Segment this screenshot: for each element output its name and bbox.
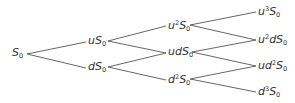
tree-node-n3ddd: d3S0 [258,83,280,101]
tree-edge-n0-n1u [27,42,86,54]
tree-node-n3udd: ud2S0 [258,57,287,75]
tree-node-n1d: dS0 [88,61,106,76]
tree-edge-n2ud-n3uud [192,40,256,52]
tree-node-n3uuu: u3S0 [258,3,280,21]
tree-edge-n1d-n2dd [108,67,166,80]
tree-edge-n2dd-n3ddd [190,79,256,92]
tree-node-n0: S0 [12,47,23,62]
tree-node-n2ud: udS0 [168,46,193,61]
binomial-tree-diagram: S0uS0dS0u2S0udS0d2S0u3S0u2dS0ud2S0d3S0 [0,0,295,103]
tree-node-n1u: uS0 [88,35,106,50]
tree-edge-n2dd-n3udd [190,66,256,79]
tree-edges [0,0,295,103]
tree-edge-n2uu-n3uud [190,25,256,40]
tree-node-n2dd: d2S0 [168,71,190,89]
tree-edge-n2uu-n3uuu [190,12,256,25]
tree-edge-n1d-n2ud [108,53,166,67]
tree-edge-n2ud-n3udd [192,52,256,66]
tree-edge-n0-n1d [27,54,86,68]
tree-node-n3uud: u2dS0 [258,31,287,49]
tree-edge-n1u-n2ud [108,41,166,53]
tree-edge-n1u-n2uu [108,26,166,41]
tree-node-n2uu: u2S0 [168,17,190,35]
